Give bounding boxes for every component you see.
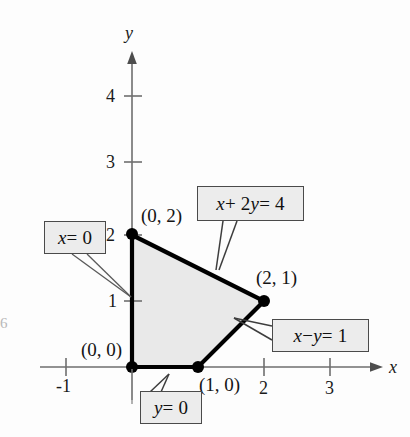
callout-x-minus-y-eq-1: x − y = 1 <box>272 319 369 352</box>
x-axis-label: x <box>389 358 397 376</box>
y-tick-label-4: 4 <box>106 87 115 105</box>
point-label-0-2: (0, 2) <box>141 206 182 225</box>
callout-x-minus-y-eq-1-var1: x <box>294 325 303 347</box>
page-margin-artifact: 6 <box>0 316 8 331</box>
callout-y-eq-0-var: y <box>154 397 163 419</box>
y-tick-label-1: 1 <box>108 292 117 310</box>
leader-line-y-eq-0-a <box>150 374 169 392</box>
leader-line-y-eq-0-b <box>161 374 169 392</box>
callout-x-minus-y-eq-1-mid: − <box>302 325 313 347</box>
feasible-region-fill <box>132 235 264 367</box>
y-axis-arrow <box>127 51 137 64</box>
callout-x-eq-0-rest: = 0 <box>67 227 93 249</box>
vertex-dot-2-1 <box>258 295 270 307</box>
callout-x-minus-y-eq-1-var2: y <box>313 325 322 347</box>
y-tick-label-2: 2 <box>106 226 115 244</box>
x-tick-label-3: 3 <box>325 379 334 397</box>
point-label-0-0: (0, 0) <box>81 340 122 359</box>
x-axis-arrow <box>370 362 383 372</box>
callout-x-2y-eq-4-rest: = 4 <box>259 193 285 215</box>
callout-x-2y-eq-4-mid: + 2 <box>225 193 251 215</box>
y-tick-label-3: 3 <box>106 153 115 171</box>
callout-x-eq-0: x = 0 <box>44 221 106 254</box>
vertex-dot-0-2 <box>126 228 138 240</box>
callout-x-eq-0-var: x <box>58 227 67 249</box>
callout-x-2y-eq-4-var2: y <box>251 193 260 215</box>
leader-line-x-eq-0-a <box>72 254 131 297</box>
vertex-dot-1-0 <box>192 361 204 373</box>
point-label-1-0: (1, 0) <box>199 375 240 394</box>
x-tick-label-2: 2 <box>259 379 268 397</box>
callout-y-eq-0: y = 0 <box>140 391 202 424</box>
callout-x-2y-eq-4: x + 2y = 4 <box>197 186 304 221</box>
x-tick-label-minus1: -1 <box>56 377 71 395</box>
callout-x-2y-eq-4-var1: x <box>216 193 225 215</box>
linear-programming-figure: y x 4 3 2 1 -1 2 3 (0, 2) (2, 1) (0, 0) … <box>0 0 410 437</box>
point-label-2-1: (2, 1) <box>256 268 297 287</box>
y-axis-label: y <box>125 24 133 42</box>
callout-y-eq-0-rest: = 0 <box>163 397 189 419</box>
callout-x-minus-y-eq-1-rest: = 1 <box>322 325 348 347</box>
